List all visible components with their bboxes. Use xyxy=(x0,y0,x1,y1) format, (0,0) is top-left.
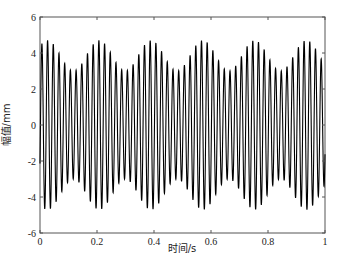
x-tick-label: 0.2 xyxy=(91,236,104,247)
x-tick-label: 0.8 xyxy=(262,236,275,247)
line-chart: 00.20.40.60.81 -6-4-20246 时间/s 幅值/mm xyxy=(0,0,337,270)
y-tick-label: -2 xyxy=(28,156,36,167)
plot-area xyxy=(40,17,325,233)
y-tick-label: -4 xyxy=(28,192,36,203)
x-tick-label: 1 xyxy=(323,236,328,247)
y-tick-label: 6 xyxy=(31,12,36,23)
y-axis-label: 幅值/mm xyxy=(0,104,12,147)
y-tick-label: 2 xyxy=(31,84,36,95)
y-tick-label: 4 xyxy=(31,48,36,59)
y-tick-label: -6 xyxy=(28,228,36,239)
x-tick-label: 0.4 xyxy=(148,236,161,247)
x-tick-label: 0.6 xyxy=(205,236,218,247)
x-tick-label: 0 xyxy=(38,236,43,247)
x-axis-label: 时间/s xyxy=(168,242,197,254)
y-tick-label: 0 xyxy=(31,120,36,131)
